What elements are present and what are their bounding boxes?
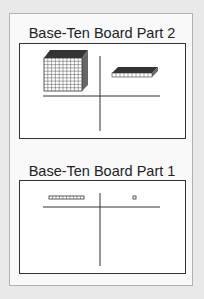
base-ten-drawings xyxy=(0,0,204,299)
flat-block-icon xyxy=(112,67,158,77)
unit-cube-icon xyxy=(133,196,136,199)
cube-block-icon xyxy=(44,50,88,91)
long-rod-icon xyxy=(49,196,84,199)
